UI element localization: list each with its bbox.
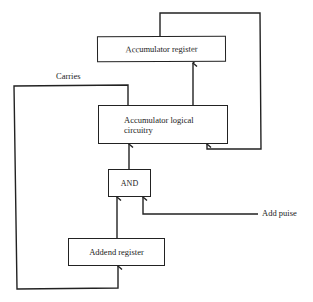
add-pulse-label: Add puise xyxy=(262,208,297,218)
addend-register-label: Addend register xyxy=(89,247,144,257)
carries-label: Carries xyxy=(56,71,81,81)
and-gate-box: AND xyxy=(108,169,151,197)
and-gate-label: AND xyxy=(121,179,138,188)
circuitry-label-line1: Accumulator logical xyxy=(124,115,194,125)
addend-register-box: Addend register xyxy=(68,238,165,266)
add-pulse-wire xyxy=(143,197,258,214)
accumulator-register-label: Accumulator register xyxy=(125,44,197,54)
accumulator-logical-circuitry-box: Accumulator logical circuitry xyxy=(98,105,228,144)
circuitry-label-line2: circuitry xyxy=(124,125,153,135)
accumulator-register-box: Accumulator register xyxy=(97,36,226,63)
